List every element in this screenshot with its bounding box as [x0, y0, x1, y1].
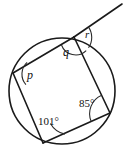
exterior-ray: [74, 4, 122, 37]
angle-label-101-degrees: 101°: [38, 116, 59, 127]
geometry-canvas: [0, 0, 126, 161]
angle-label-p: p: [27, 69, 33, 81]
angle-label-q: q: [63, 46, 69, 58]
angle-label-r: r: [85, 29, 89, 40]
geometry-figure: p q r 101° 85°: [0, 0, 126, 161]
angle-label-85-degrees: 85°: [79, 98, 94, 109]
